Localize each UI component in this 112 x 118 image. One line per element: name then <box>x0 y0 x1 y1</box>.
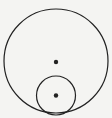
large-circle-center-dot <box>54 60 58 64</box>
small-circle-center-dot <box>54 93 58 97</box>
tangent-circles-diagram <box>0 0 112 118</box>
